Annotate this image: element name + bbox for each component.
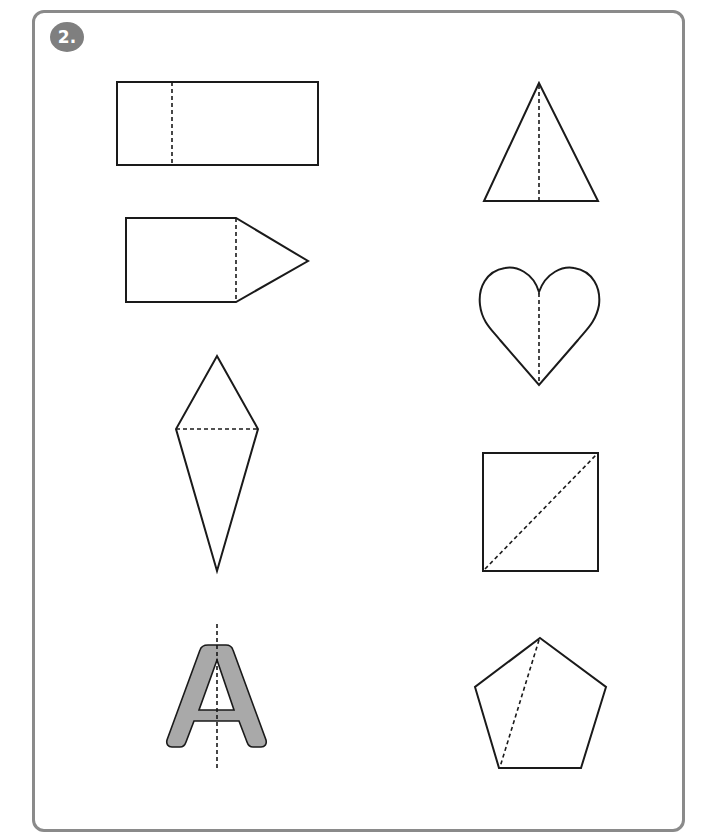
shape-rectangle bbox=[117, 82, 318, 165]
exercise-number-badge: 2. bbox=[50, 22, 84, 52]
shape-triangle bbox=[484, 83, 598, 201]
shape-arrow-pentagon bbox=[126, 218, 308, 302]
fold-line bbox=[485, 454, 597, 569]
fold-line bbox=[500, 640, 539, 767]
shape-kite bbox=[176, 356, 258, 571]
shape-square bbox=[483, 453, 598, 571]
shapes-canvas bbox=[0, 0, 705, 838]
shape-letter-a bbox=[167, 624, 267, 768]
shape-heart bbox=[480, 268, 600, 385]
shape-pentagon bbox=[475, 638, 606, 768]
